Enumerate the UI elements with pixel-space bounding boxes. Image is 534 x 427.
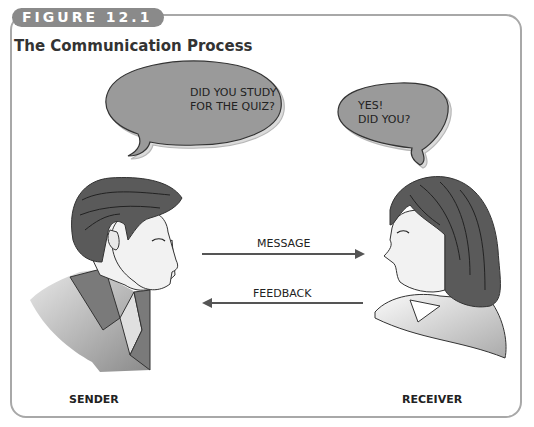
receiver-speech-line-1: YES! [358, 99, 383, 113]
receiver-label: RECEIVER [402, 393, 462, 406]
feedback-label: FEEDBACK [253, 287, 311, 300]
sender-speech-line-1: DID YOU STUDY [190, 86, 276, 100]
communication-illustration [0, 0, 534, 427]
sender-figure [30, 178, 182, 372]
sender-label: SENDER [69, 393, 119, 406]
sender-speech-line-2: FOR THE QUIZ? [190, 100, 275, 114]
receiver-figure [375, 177, 506, 358]
receiver-speech-line-2: DID YOU? [358, 113, 410, 127]
message-label: MESSAGE [257, 237, 310, 250]
